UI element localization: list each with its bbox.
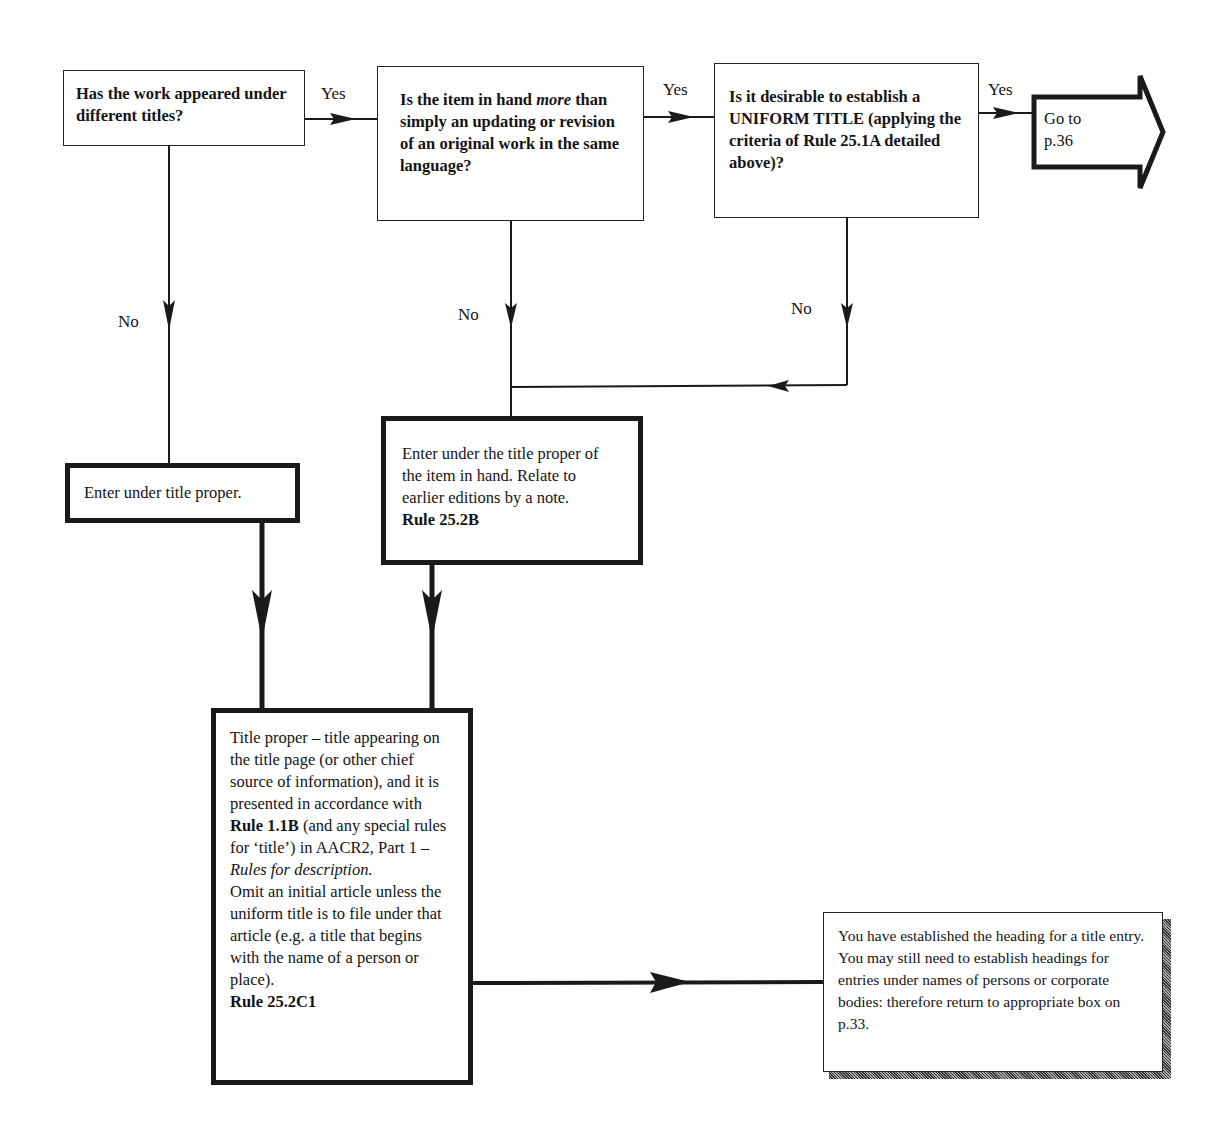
- edge-label-no: No: [118, 312, 139, 332]
- question-appeared-different-titles: Has the work appeared under different ti…: [63, 70, 305, 146]
- goto-p36-arrow[interactable]: Go to p.36: [1044, 108, 1081, 152]
- question-establish-uniform-title: Is it desirable to establish a UNIFORM T…: [714, 63, 979, 218]
- rule-reference: Rule 25.2B: [402, 510, 479, 529]
- definition-title-proper: Title proper – title appearing on the ti…: [211, 708, 473, 1085]
- emphasis-more: more: [536, 90, 571, 109]
- edge-label-no: No: [458, 305, 479, 325]
- edge-label-no: No: [791, 299, 812, 319]
- question-text: Has the work appeared under different ti…: [76, 84, 286, 125]
- action-enter-item-in-hand: Enter under the title proper of the item…: [381, 416, 643, 565]
- rule-reference: Rule 25.2C1: [230, 992, 316, 1011]
- edge-label-yes: Yes: [988, 80, 1013, 100]
- final-heading-established: You have established the heading for a t…: [823, 912, 1163, 1072]
- action-enter-under-title-proper: Enter under title proper.: [65, 463, 300, 523]
- question-more-than-updating: Is the item in hand more than simply an …: [377, 66, 644, 221]
- edge-label-yes: Yes: [663, 80, 688, 100]
- edge-label-yes: Yes: [321, 84, 346, 104]
- rule-reference: Rule 1.1B: [230, 816, 299, 835]
